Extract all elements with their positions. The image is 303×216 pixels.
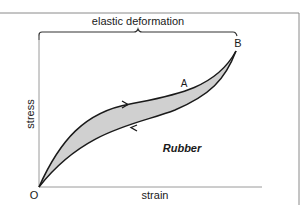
elastic-bracket <box>39 29 237 40</box>
point-a-label: A <box>181 78 188 89</box>
title-label: elastic deformation <box>92 15 184 27</box>
y-axis-label: stress <box>24 99 36 129</box>
origin-label: O <box>30 189 39 201</box>
arrow-left-icon <box>131 125 137 131</box>
point-b-label: B <box>234 37 241 49</box>
material-label: Rubber <box>163 142 202 154</box>
hysteresis-area <box>39 51 236 187</box>
stress-strain-diagram: elastic deformation B A Rubber O strain … <box>0 0 303 216</box>
x-axis-label: strain <box>142 189 169 201</box>
